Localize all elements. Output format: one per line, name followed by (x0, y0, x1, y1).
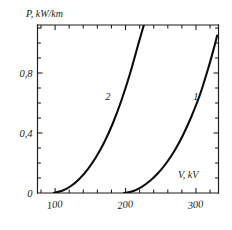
x-tick-label-200: 200 (117, 198, 135, 211)
x-tick-label-100: 100 (46, 198, 64, 211)
x-axis-title: V, kV (178, 169, 200, 180)
curve-label-2: 2 (105, 91, 111, 102)
y-tick-label-0: 0 (27, 188, 33, 199)
y-tick-label-0,4: 0,4 (19, 128, 33, 139)
x-tick-label-300: 300 (186, 198, 205, 211)
corona-loss-chart: 10020030000,40,812 P, kW/km V, kV (0, 0, 232, 230)
y-tick-label-0,8: 0,8 (19, 68, 33, 79)
curve-label-1: 1 (193, 91, 198, 102)
y-axis-title: P, kW/km (25, 8, 63, 19)
chart-screenshot: 10020030000,40,812 P, kW/km V, kV (0, 0, 232, 230)
